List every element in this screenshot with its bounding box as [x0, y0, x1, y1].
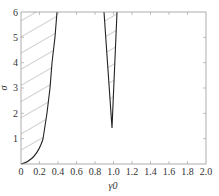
chart: 0 0.2 0.4 0.6 0.8 1.0 1.2 1.4 1.6 1.8 2.…: [0, 0, 219, 196]
svg-text:5: 5: [13, 32, 18, 43]
svg-text:0: 0: [19, 166, 24, 177]
svg-text:1.4: 1.4: [144, 166, 157, 177]
svg-text:4: 4: [13, 57, 18, 68]
hatched-region-left: [21, 12, 57, 164]
y-axis-label: σ: [0, 84, 9, 90]
svg-text:3: 3: [13, 82, 18, 93]
x-tick-labels: 0 0.2 0.4 0.6 0.8 1.0 1.2 1.4 1.6 1.8 2.…: [19, 166, 213, 177]
x-axis-label: γ0: [109, 180, 118, 191]
svg-text:2.0: 2.0: [200, 166, 213, 177]
svg-text:1.6: 1.6: [163, 166, 176, 177]
svg-text:2: 2: [13, 108, 18, 119]
svg-text:1.2: 1.2: [126, 166, 139, 177]
svg-text:0.4: 0.4: [52, 166, 65, 177]
svg-text:1.8: 1.8: [181, 166, 194, 177]
svg-text:1: 1: [13, 133, 18, 144]
svg-text:1.0: 1.0: [107, 166, 120, 177]
svg-text:0.8: 0.8: [89, 166, 102, 177]
svg-text:6: 6: [13, 7, 18, 18]
y-tick-labels: 1 2 3 4 5 6: [13, 7, 18, 145]
svg-text:0.6: 0.6: [70, 166, 83, 177]
svg-text:0.2: 0.2: [33, 166, 46, 177]
